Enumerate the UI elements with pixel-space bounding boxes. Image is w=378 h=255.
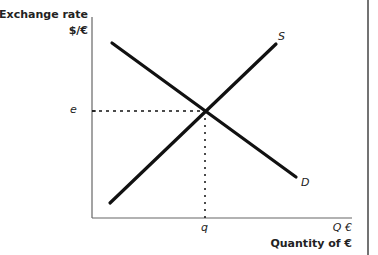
demand-curve [112, 43, 296, 177]
demand-label: D [301, 176, 309, 189]
equilibrium-quantity-label: q [201, 221, 208, 234]
supply-label: S [278, 30, 285, 43]
supply-curve [110, 44, 276, 203]
x-axis-title: Quantity of € [270, 237, 352, 250]
x-axis-tag: Q € [333, 221, 352, 234]
y-axis-unit: $/€ [69, 24, 88, 37]
exchange-rate-chart: Exchange rate $/€ Q € Quantity of € e q … [0, 0, 378, 255]
equilibrium-price-label: e [70, 103, 77, 116]
y-axis-title: Exchange rate [0, 8, 88, 21]
chart-canvas [0, 0, 378, 255]
